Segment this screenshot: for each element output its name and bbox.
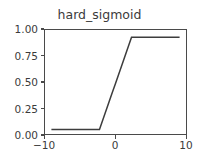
x-tick-mark: [44, 135, 45, 139]
x-tick-mark: [115, 135, 116, 139]
y-tick-label: 0.75: [15, 50, 38, 62]
series-line-hard-sigmoid: [51, 37, 179, 129]
chart-figure: hard_sigmoid 0.00 0.25 0.50 0.75 1.00 −1…: [0, 0, 199, 166]
y-tick-label: 0.50: [15, 76, 38, 88]
x-axis-tick-labels: −10 0 10: [0, 139, 199, 159]
data-line-svg: [45, 30, 186, 134]
x-tick-label: −10: [33, 139, 55, 151]
x-tick-label: 10: [179, 139, 192, 151]
plot-area: [44, 29, 187, 135]
y-tick-label: 1.00: [15, 23, 38, 35]
x-tick-label: 0: [112, 139, 119, 151]
x-tick-mark: [186, 135, 187, 139]
y-tick-label: 0.25: [15, 103, 38, 115]
